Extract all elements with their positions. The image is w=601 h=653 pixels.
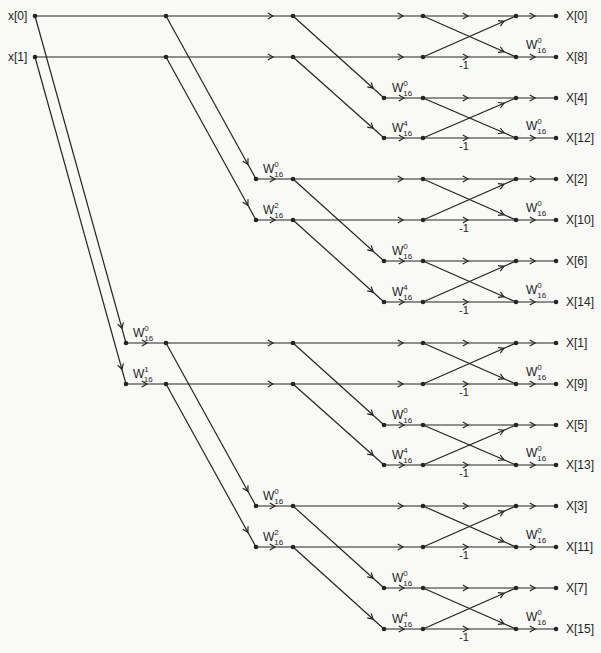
twiddle-exponent: 0 bbox=[537, 117, 542, 126]
node-dot bbox=[554, 218, 559, 223]
minus-one-label: -1 bbox=[459, 140, 469, 152]
output-label: X[8] bbox=[566, 50, 587, 64]
twiddle-label: W116 bbox=[133, 365, 153, 384]
branch-line bbox=[293, 220, 384, 302]
twiddle-exponent: 0 bbox=[144, 324, 149, 333]
output-label: X[2] bbox=[566, 172, 587, 186]
twiddle-exponent: 0 bbox=[403, 406, 408, 415]
node-dot bbox=[554, 55, 559, 60]
twiddle-label: W416 bbox=[392, 283, 413, 302]
twiddle-base: W bbox=[526, 38, 538, 52]
twiddle-subscript: 16 bbox=[403, 416, 412, 425]
twiddle-label: W416 bbox=[392, 119, 413, 138]
twiddle-label: W016 bbox=[392, 406, 413, 425]
twiddle-label: W416 bbox=[392, 446, 413, 465]
twiddle-subscript: 16 bbox=[537, 454, 546, 463]
minus-one-label: -1 bbox=[459, 467, 469, 479]
fft-flow-graph: x[0]x[1]X[0]X[8]X[4]X[12]X[2]X[10]X[6]X[… bbox=[0, 0, 601, 653]
twiddle-subscript: 16 bbox=[403, 129, 412, 138]
output-label: X[10] bbox=[566, 213, 594, 227]
twiddle-label: W016 bbox=[526, 281, 547, 300]
node-dot bbox=[554, 545, 559, 550]
twiddle-label: W016 bbox=[526, 36, 547, 55]
twiddle-exponent: 0 bbox=[274, 160, 279, 169]
twiddle-exponent: 0 bbox=[537, 36, 542, 45]
input-label: x[0] bbox=[8, 9, 27, 23]
node-dot bbox=[554, 586, 559, 591]
output-label: X[12] bbox=[566, 131, 594, 145]
twiddle-label: W016 bbox=[526, 444, 547, 463]
twiddle-base: W bbox=[526, 283, 538, 297]
twiddle-label: W416 bbox=[392, 610, 413, 629]
branch-line bbox=[35, 16, 126, 343]
twiddle-base: W bbox=[392, 612, 404, 626]
twiddle-base: W bbox=[526, 119, 538, 133]
twiddle-base: W bbox=[263, 203, 275, 217]
twiddle-exponent: 0 bbox=[403, 569, 408, 578]
node-dot bbox=[554, 627, 559, 632]
twiddle-exponent: 2 bbox=[274, 201, 279, 210]
twiddle-label: W016 bbox=[526, 199, 547, 218]
twiddle-subscript: 16 bbox=[537, 373, 546, 382]
twiddle-label: W016 bbox=[526, 526, 547, 545]
twiddle-exponent: 0 bbox=[537, 281, 542, 290]
branch-line bbox=[293, 547, 384, 629]
branch-line bbox=[293, 57, 384, 138]
twiddle-base: W bbox=[263, 162, 275, 176]
twiddle-subscript: 16 bbox=[274, 211, 283, 220]
node-dot bbox=[554, 382, 559, 387]
twiddle-subscript: 16 bbox=[144, 334, 153, 343]
output-label: X[14] bbox=[566, 295, 594, 309]
twiddle-exponent: 0 bbox=[537, 363, 542, 372]
twiddle-subscript: 16 bbox=[537, 209, 546, 218]
minus-one-label: -1 bbox=[459, 59, 469, 71]
node-dot bbox=[554, 177, 559, 182]
node-dot bbox=[554, 463, 559, 468]
output-label: X[11] bbox=[566, 540, 593, 554]
twiddle-subscript: 16 bbox=[274, 538, 283, 547]
node-dot bbox=[554, 259, 559, 264]
node-dot bbox=[554, 14, 559, 19]
twiddle-base: W bbox=[526, 610, 538, 624]
twiddle-exponent: 0 bbox=[537, 608, 542, 617]
twiddle-base: W bbox=[392, 285, 404, 299]
output-label: X[0] bbox=[566, 9, 587, 23]
twiddle-exponent: 4 bbox=[403, 446, 408, 455]
output-label: X[1] bbox=[566, 336, 587, 350]
twiddle-subscript: 16 bbox=[537, 46, 546, 55]
fft-flow-graph-svg: x[0]x[1]X[0]X[8]X[4]X[12]X[2]X[10]X[6]X[… bbox=[0, 0, 601, 653]
twiddle-label: W016 bbox=[526, 608, 547, 627]
minus-one-label: -1 bbox=[459, 304, 469, 316]
twiddle-subscript: 16 bbox=[274, 170, 283, 179]
twiddle-base: W bbox=[392, 244, 404, 258]
twiddle-label: W016 bbox=[133, 324, 154, 343]
twiddle-subscript: 16 bbox=[537, 536, 546, 545]
twiddle-label: W016 bbox=[392, 242, 413, 261]
output-label: X[15] bbox=[566, 622, 594, 636]
minus-one-label: -1 bbox=[459, 222, 469, 234]
node-dot bbox=[554, 300, 559, 305]
branch-line bbox=[166, 343, 256, 506]
twiddle-exponent: 0 bbox=[537, 444, 542, 453]
twiddle-exponent: 1 bbox=[144, 365, 149, 374]
twiddle-exponent: 0 bbox=[537, 526, 542, 535]
twiddle-base: W bbox=[526, 365, 538, 379]
twiddle-base: W bbox=[526, 528, 538, 542]
node-dot bbox=[554, 341, 559, 346]
output-label: X[9] bbox=[566, 377, 587, 391]
minus-one-label: -1 bbox=[459, 549, 469, 561]
branch-line bbox=[35, 57, 126, 384]
branch-line bbox=[166, 16, 256, 179]
twiddle-base: W bbox=[392, 571, 404, 585]
twiddle-exponent: 4 bbox=[403, 119, 408, 128]
twiddle-subscript: 16 bbox=[537, 127, 546, 136]
node-dot bbox=[554, 136, 559, 141]
twiddle-subscript: 16 bbox=[403, 456, 412, 465]
node-dot bbox=[554, 504, 559, 509]
twiddle-exponent: 4 bbox=[403, 283, 408, 292]
twiddle-subscript: 16 bbox=[274, 497, 283, 506]
twiddle-subscript: 16 bbox=[403, 252, 412, 261]
twiddle-exponent: 0 bbox=[537, 199, 542, 208]
output-label: X[6] bbox=[566, 254, 587, 268]
twiddle-base: W bbox=[392, 121, 404, 135]
